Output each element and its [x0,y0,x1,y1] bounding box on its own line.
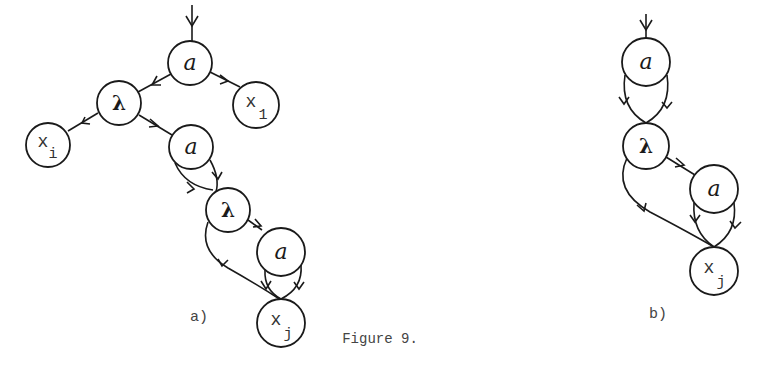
edge-l1-a2 [139,115,172,135]
node-xi: x i [26,123,70,167]
node-label: a [274,239,287,264]
arrow-head-icon [253,219,261,227]
node-subscript: i [48,146,57,163]
diagram-a: a x 1 λ x i a λ a x j [26,5,305,347]
node-xj: x j [257,299,305,347]
node-a3: a [257,228,305,276]
arrow-head-icon [149,119,158,127]
node-label: λ [639,134,653,158]
node-label: a [184,134,197,159]
diagram-b: a λ a x j b) [619,14,741,323]
edge-a1-l1 [138,74,171,92]
node-a1: a [622,38,670,86]
node-label: x [704,258,715,278]
node-label: λ [221,198,235,222]
diagram-a-label: a) [190,309,208,326]
node-label: x [246,92,257,112]
figure-caption: Figure 9. [342,331,418,347]
node-label: a [183,50,196,75]
node-label: a [639,49,652,74]
node-a2: a [690,165,738,213]
node-a2: a [169,125,213,169]
node-a1: a [168,41,212,85]
node-lambda1: λ [97,81,141,125]
node-label: a [707,176,720,201]
node-subscript: 1 [258,107,267,124]
diagram-b-label: b) [649,306,667,323]
node-lambda2: λ [206,188,250,232]
node-lambda: λ [623,123,669,169]
node-label: λ [112,91,126,115]
arrow-head-icon [218,259,228,266]
node-xj: x j [690,247,738,295]
arrow-head-icon [662,102,672,108]
node-subscript: j [283,326,292,343]
node-label: x [271,310,282,330]
figure-9: a x 1 λ x i a λ a x j [0,0,766,367]
node-subscript: j [716,274,725,291]
node-x1: x 1 [233,82,279,128]
node-label: x [38,132,49,152]
